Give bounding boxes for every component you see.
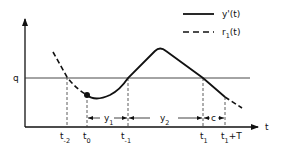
interval-label-y2: y2 [160, 113, 169, 127]
time-label-t1: t1 [200, 131, 208, 145]
x-axis-label: t [265, 122, 269, 132]
timing-diagram: t q y1 y2 c t-2 t0 t-1 t1 t1+T y'(t) r1(… [0, 0, 281, 152]
start-point-dot [84, 92, 90, 98]
time-label-t-minus-2: t-2 [60, 131, 70, 145]
r1-curve-right [225, 97, 242, 108]
legend-label-r1: r1(t) [222, 27, 240, 40]
time-label-t0: t0 [83, 131, 91, 145]
interval-label-y1: y1 [104, 113, 113, 127]
r1-curve-left [53, 52, 87, 95]
time-label-t1-plus-T: t1+T [221, 131, 242, 145]
threshold-label: q [13, 73, 19, 83]
legend: y'(t) r1(t) [183, 9, 240, 40]
time-label-t-minus-1: t-1 [121, 131, 131, 145]
y-prime-curve [87, 49, 225, 99]
interval-label-c: c [211, 113, 216, 123]
time-marker-lines [67, 77, 225, 127]
legend-label-y-prime: y'(t) [222, 9, 240, 19]
